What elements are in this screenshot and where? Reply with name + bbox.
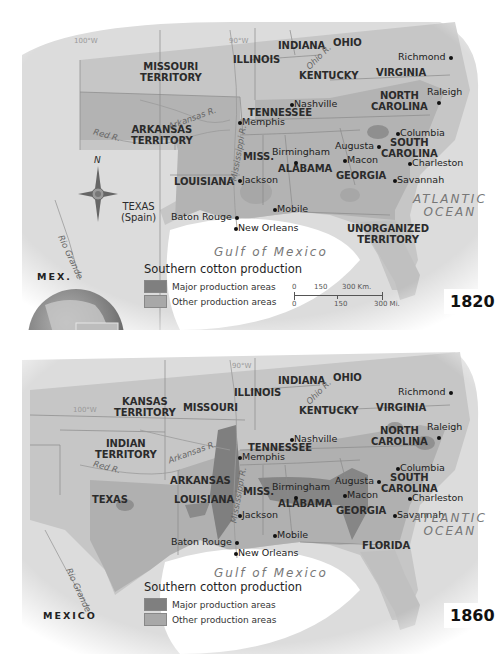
- city-augusta: Augusta: [335, 141, 381, 151]
- swatch-major: [144, 280, 167, 293]
- legend-1860: Southern cotton production Major product…: [144, 580, 314, 627]
- swatch-major: [144, 598, 167, 611]
- region-ohio: OHIO: [333, 37, 362, 48]
- region-ohio: OHIO: [333, 372, 362, 383]
- city-birmingham: Birmingham: [272, 147, 330, 167]
- region-kentucky: KENTUCKY: [299, 70, 358, 81]
- year-label-1860: 1860: [444, 603, 500, 628]
- gridline-label-90w: 90°W: [229, 37, 248, 45]
- region-virginia: VIRGINIA: [376, 402, 426, 413]
- region-illinois: ILLINOIS: [234, 387, 281, 398]
- region-missouri-territory: MISSOURITERRITORY: [140, 61, 202, 83]
- region-kentucky: KENTUCKY: [299, 405, 358, 416]
- swatch-other: [144, 613, 167, 626]
- region-louisiana: LOUISIANA: [174, 494, 234, 505]
- city-richmond: Richmond: [398, 52, 453, 62]
- city-baton-rouge: Baton Rouge: [171, 537, 239, 547]
- region-mississippi: MISS.: [243, 151, 274, 162]
- city-macon: Macon: [343, 490, 378, 500]
- water-gulf-of-mexico: Gulf of Mexico: [214, 246, 328, 259]
- compass-north-label: N: [94, 155, 101, 166]
- region-arkansas: ARKANSAS: [170, 475, 231, 486]
- region-north-carolina: NORTHCAROLINA: [371, 90, 428, 112]
- region-unorganized-territory: UNORGANIZEDTERRITORY: [347, 223, 429, 245]
- city-raleigh: Raleigh: [427, 87, 462, 107]
- city-new-orleans: New Orleans: [234, 223, 298, 233]
- legend-item-other: Other production areas: [144, 612, 314, 627]
- water-gulf-of-mexico: Gulf of Mexico: [214, 567, 328, 580]
- city-richmond: Richmond: [398, 387, 453, 397]
- city-charleston: Charleston: [408, 493, 463, 503]
- city-augusta: Augusta: [335, 476, 381, 486]
- region-louisiana: LOUISIANA: [174, 176, 234, 187]
- legend-title: Southern cotton production: [144, 580, 314, 594]
- swatch-other: [144, 295, 167, 308]
- region-texas-spain: TEXAS(Spain): [121, 201, 156, 223]
- legend-item-other: Other production areas: [144, 294, 314, 309]
- city-jackson: Jackson: [238, 175, 278, 185]
- city-nashville: Nashville: [290, 434, 337, 444]
- region-north-carolina: NORTHCAROLINA: [371, 425, 428, 447]
- city-new-orleans: New Orleans: [234, 548, 298, 558]
- region-florida: FLORIDA: [362, 540, 410, 551]
- city-charleston: Charleston: [408, 158, 463, 168]
- water-atlantic-ocean: ATLANTICOCEAN: [413, 193, 487, 219]
- region-georgia: GEORGIA: [336, 505, 386, 516]
- region-mississippi: MISS.: [243, 486, 274, 497]
- legend-item-major: Major production areas: [144, 597, 314, 612]
- city-memphis: Memphis: [238, 452, 285, 462]
- city-columbia: Columbia: [396, 128, 445, 138]
- city-macon: Macon: [343, 155, 378, 165]
- gridline-label-100w: 100°W: [74, 37, 98, 45]
- region-illinois: ILLINOIS: [233, 54, 280, 65]
- gridline-label-100w: 100°W: [73, 406, 97, 414]
- region-arkansas-territory: ARKANSASTERRITORY: [131, 124, 193, 146]
- legend-1820: Southern cotton production Major product…: [144, 262, 314, 309]
- region-south-carolina: SOUTHCAROLINA: [381, 137, 438, 159]
- region-georgia: GEORGIA: [336, 170, 386, 181]
- legend-title: Southern cotton production: [144, 262, 314, 276]
- city-jackson: Jackson: [238, 510, 278, 520]
- year-label-1820: 1820: [444, 289, 500, 314]
- city-savannah: Savannah: [393, 175, 444, 185]
- region-kansas-territory: KANSASTERRITORY: [114, 396, 176, 418]
- city-columbia: Columbia: [396, 463, 445, 473]
- water-atlantic-ocean: ATLANTICOCEAN: [413, 512, 487, 538]
- map-panel-1860: 100°W 90°W KANSASTERRITORY MISSOURI ILLI…: [0, 330, 500, 654]
- city-mobile: Mobile: [273, 204, 308, 214]
- region-missouri: MISSOURI: [183, 402, 238, 413]
- scale-bar: 0 150 300 Km. 0 150 300 Mi.: [292, 283, 402, 313]
- region-indian-territory: INDIANTERRITORY: [95, 438, 157, 460]
- region-virginia: VIRGINIA: [376, 67, 426, 78]
- city-mobile: Mobile: [273, 530, 308, 540]
- region-south-carolina: SOUTHCAROLINA: [381, 472, 438, 494]
- city-raleigh: Raleigh: [427, 422, 462, 442]
- city-birmingham: Birmingham: [272, 482, 330, 502]
- region-mexico: MEXICO: [43, 610, 97, 621]
- gridline-label-90w: 90°W: [232, 362, 251, 370]
- region-texas: TEXAS: [92, 494, 128, 505]
- map-panel-1820: 100°W 90°W N MISSOURITERRITORY ARKANSAST…: [0, 0, 500, 330]
- region-mexico: MEX.: [37, 271, 72, 282]
- city-baton-rouge: Baton Rouge: [171, 212, 239, 222]
- city-nashville: Nashville: [290, 99, 337, 109]
- legend-item-major: Major production areas: [144, 279, 314, 294]
